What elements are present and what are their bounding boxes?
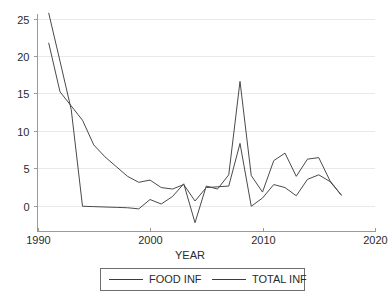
y-tick-label: 15 <box>17 88 29 100</box>
chart-legend[interactable]: FOOD INF TOTAL INF <box>101 269 308 291</box>
y-tick-label: 25 <box>17 14 29 26</box>
y-tick-label: 20 <box>17 51 29 63</box>
legend-label-total-inf[interactable]: TOTAL INF <box>252 273 307 285</box>
x-tick-label: 1990 <box>26 234 50 246</box>
x-tick-label: 2020 <box>363 234 387 246</box>
x-tick-label: 2000 <box>138 234 162 246</box>
chart-container: 0510152025 1990200020102020 YEAR FOOD IN… <box>0 0 388 303</box>
legend-label-food-inf[interactable]: FOOD INF <box>149 273 202 285</box>
y-tick-label: 0 <box>23 201 29 213</box>
x-tick-label: 2010 <box>251 234 275 246</box>
y-tick-label: 10 <box>17 126 29 138</box>
x-axis-title: YEAR <box>175 249 205 261</box>
line-chart: 0510152025 1990200020102020 YEAR FOOD IN… <box>0 0 388 303</box>
y-tick-label: 5 <box>23 163 29 175</box>
